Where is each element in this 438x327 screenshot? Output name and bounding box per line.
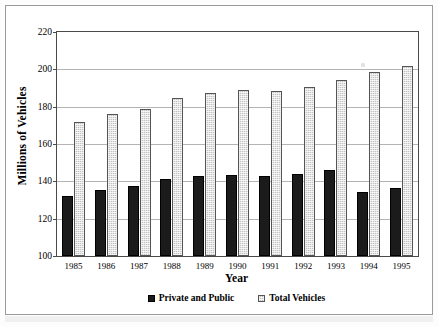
y-tick-label: 160 xyxy=(38,139,52,149)
bar xyxy=(271,91,282,256)
bar xyxy=(304,87,315,256)
y-tick-label: 180 xyxy=(38,102,52,112)
bar-group xyxy=(320,32,353,256)
bar xyxy=(226,175,237,256)
legend-label: Total Vehicles xyxy=(269,293,325,303)
bar xyxy=(357,192,368,256)
scan-artifact xyxy=(361,63,365,67)
bar-group xyxy=(385,32,418,256)
y-axis-title: Millions of Vehicles xyxy=(16,51,28,221)
bar-group xyxy=(123,32,156,256)
legend-entry: Total Vehicles xyxy=(258,293,325,303)
x-tick-label: 1992 xyxy=(294,261,312,271)
y-tick-label: 220 xyxy=(38,27,52,37)
gray-hatched-swatch xyxy=(258,295,265,302)
x-axis-title: Year xyxy=(56,272,417,284)
bar-group xyxy=(221,32,254,256)
y-tick-label: 120 xyxy=(38,214,52,224)
x-tick-label: 1985 xyxy=(64,261,82,271)
bar xyxy=(402,66,413,256)
bar-group xyxy=(287,32,320,256)
x-tick-label: 1994 xyxy=(360,261,378,271)
x-tick-label: 1991 xyxy=(261,261,279,271)
bar xyxy=(74,122,85,256)
black-solid-swatch xyxy=(148,295,155,302)
bar-group xyxy=(57,32,90,256)
bar xyxy=(62,196,73,256)
bar xyxy=(336,80,347,256)
bar xyxy=(259,176,270,256)
bar xyxy=(172,98,183,256)
bar xyxy=(292,174,303,257)
x-tick-label: 1989 xyxy=(196,261,214,271)
bar xyxy=(95,190,106,256)
bar xyxy=(369,72,380,256)
bar-group xyxy=(352,32,385,256)
legend-label: Private and Public xyxy=(159,293,234,303)
x-tick-label: 1986 xyxy=(97,261,115,271)
figure-root: Millions of Vehicles 1001201401601802002… xyxy=(0,0,438,327)
bar xyxy=(238,90,249,256)
x-tick-label: 1987 xyxy=(130,261,148,271)
x-tick-label: 1995 xyxy=(393,261,411,271)
bar xyxy=(193,176,204,256)
bar xyxy=(324,170,335,256)
bar-group xyxy=(254,32,287,256)
y-tick-mark xyxy=(53,256,57,257)
y-tick-label: 100 xyxy=(38,251,52,261)
bar xyxy=(140,109,151,256)
x-tick-label: 1988 xyxy=(163,261,181,271)
y-tick-label: 200 xyxy=(38,64,52,74)
x-tick-label: 1990 xyxy=(229,261,247,271)
bar-group xyxy=(90,32,123,256)
y-tick-label: 140 xyxy=(38,176,52,186)
bar-group xyxy=(155,32,188,256)
x-tick-label: 1993 xyxy=(327,261,345,271)
bar xyxy=(205,93,216,256)
legend-entry: Private and Public xyxy=(148,293,234,303)
bar xyxy=(390,188,401,256)
bar xyxy=(128,186,139,256)
bar xyxy=(160,179,171,256)
bar-group xyxy=(188,32,221,256)
bar-chart: Millions of Vehicles 1001201401601802002… xyxy=(0,0,438,327)
bar xyxy=(107,114,118,256)
chart-legend: Private and PublicTotal Vehicles xyxy=(56,293,417,303)
